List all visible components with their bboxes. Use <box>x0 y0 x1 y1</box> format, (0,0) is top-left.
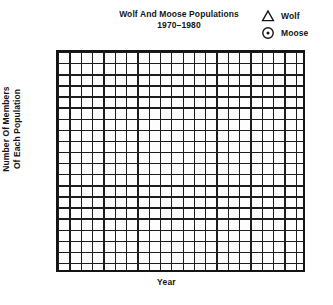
legend-item-wolf: Wolf <box>261 8 331 23</box>
chart-subtitle: 1970–1980 <box>104 20 254 31</box>
chart-legend: Wolf Moose <box>261 8 331 42</box>
chart-title-block: Wolf And Moose Populations 1970–1980 <box>104 9 254 31</box>
y-axis-label-line-1: Number Of Members <box>1 44 12 214</box>
circle-dot-icon <box>261 26 275 40</box>
page-title: Wolf And Moose Populations <box>104 9 254 20</box>
x-axis-label: Year <box>0 277 333 287</box>
triangle-icon <box>261 9 275 23</box>
y-axis-label-line-2: Of Each Population <box>12 44 23 214</box>
legend-item-moose: Moose <box>261 25 331 40</box>
y-axis-label: Number Of Members Of Each Population <box>1 44 23 214</box>
chart-plot-area <box>56 50 305 272</box>
legend-label-wolf: Wolf <box>281 11 300 21</box>
legend-label-moose: Moose <box>281 28 308 38</box>
chart-gridlines <box>58 52 303 270</box>
